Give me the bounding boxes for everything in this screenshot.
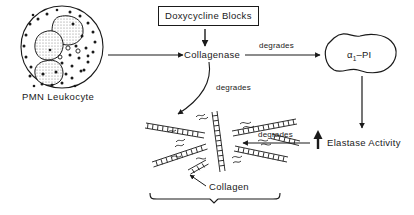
collagen-brace: [150, 193, 280, 203]
collagenase-label: Collagenase: [184, 50, 240, 60]
alpha1-pi-suffix: –PI: [357, 49, 372, 60]
pmn-leukocyte-cell: [21, 6, 103, 88]
increase-arrow-icon: [314, 130, 323, 149]
degrades-label-collagen-curve: degrades: [216, 84, 251, 92]
pmn-leukocyte-label: PMN Leukocyte: [22, 92, 94, 102]
diagram-vector-layer: [0, 0, 414, 215]
collagen-label-pointer: [190, 175, 206, 186]
degrades-label-elastase: degrades: [258, 131, 293, 139]
doxycycline-blocks-box: Doxycycline Blocks: [158, 6, 259, 26]
arrow-collagenase-to-collagen: [178, 62, 210, 114]
elastase-activity-label: Elastase Activity: [327, 138, 401, 148]
degrades-label-alpha1pi: degrades: [259, 42, 294, 50]
diagram-canvas: PMN Leukocyte Doxycycline Blocks Collage…: [0, 0, 414, 215]
alpha1-pi-label: α1–PI: [347, 50, 371, 62]
collagen-label: Collagen: [209, 182, 249, 192]
